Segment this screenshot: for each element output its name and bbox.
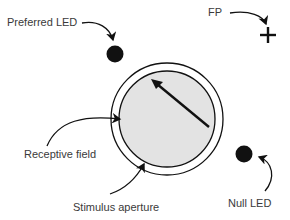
fp-label: FP [208,6,222,18]
diagram-canvas [0,0,290,220]
fixation-point-plus-icon [260,27,276,43]
null-led-dot [236,146,253,163]
preferred-led-dot [107,46,124,63]
fp-callout-arrow [230,12,266,24]
stimulus-aperture-label: Stimulus aperture [73,201,159,213]
receptive-field-label: Receptive field [24,148,96,160]
stimulus-aperture-callout-arrow [110,164,144,194]
null-led-callout-arrow [259,157,272,191]
receptive-field-callout-arrow [47,118,120,146]
preferred-led-callout-arrow [82,22,113,40]
preferred-led-label: Preferred LED [7,16,77,28]
null-led-label: Null LED [228,197,271,209]
